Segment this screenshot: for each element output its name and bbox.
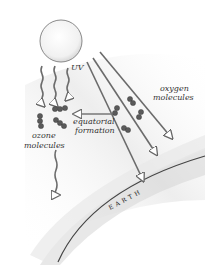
sun-icon <box>40 20 82 62</box>
equatorial-label-line1: equatorial <box>73 117 115 126</box>
ozone-label-line2: molecules <box>24 141 65 150</box>
equatorial-label-line2: formation <box>75 126 115 135</box>
uv-label: UV <box>71 63 84 72</box>
oxygen-label-line1: oxygen <box>160 84 189 93</box>
ozone-label-line1: ozone <box>32 131 56 140</box>
oxygen-label-line2: molecules <box>153 93 194 102</box>
ozone-diagram: EARTH UV oxygen molecules equatorial for… <box>0 0 215 275</box>
